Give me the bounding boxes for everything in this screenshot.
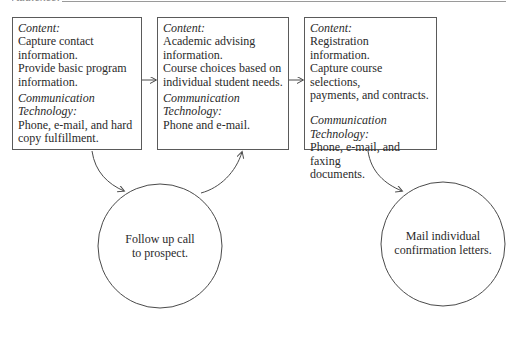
stage-box-1-inquiry: Content: Capture contact information. Pr… — [12, 17, 142, 150]
content-text: Academic advising information. Course ch… — [163, 35, 283, 89]
arrow-box1-to-circle1 — [92, 151, 124, 191]
circle-1-text: Follow up call to prospect. — [100, 232, 220, 260]
content-label: Content: — [163, 22, 283, 35]
tech-label: Communication Technology: — [163, 92, 283, 119]
stage-box-2-advising: Content: Academic advising information. … — [157, 17, 289, 150]
top-rule — [62, 1, 506, 2]
tech-label: Communication Technology: — [310, 114, 431, 141]
circle-2-text: Mail individual confirmation letters. — [383, 229, 503, 257]
content-text: Registration information. Capture course… — [310, 35, 431, 102]
content-label: Content: — [18, 22, 136, 35]
content-text: Capture contact information. Provide bas… — [18, 35, 136, 89]
tech-text: Phone, e-mail, and hard copy fulfillment… — [18, 119, 136, 146]
content-label: Content: — [310, 22, 431, 35]
stage-box-3-registration: Content: Registration information. Captu… — [304, 17, 437, 150]
arrow-circle1-to-box2 — [201, 152, 242, 193]
tech-text: Phone, e-mail, and faxing documents. — [310, 141, 431, 181]
tech-label: Communication Technology: — [18, 92, 136, 119]
tech-text: Phone and e-mail. — [163, 119, 283, 132]
cropped-heading: Audience: — [12, 0, 61, 1]
